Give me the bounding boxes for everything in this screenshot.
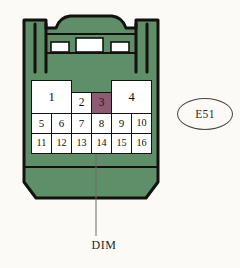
pin-1[interactable]: 1 [31,80,72,114]
pin-12[interactable]: 12 [51,133,72,154]
pin-2[interactable]: 2 [71,92,92,114]
pin-3-label: 3 [99,97,105,109]
latch-block-right [111,42,129,52]
connector-id-callout[interactable]: E51 [177,98,233,130]
pin-9-label: 9 [119,118,125,129]
pin-6[interactable]: 6 [51,113,72,134]
dim-signal-label: DIM [74,238,134,253]
pin-4-label: 4 [128,91,134,104]
pin-11[interactable]: 11 [31,133,52,154]
pin-16[interactable]: 16 [131,133,152,154]
latch-block-center [76,38,103,52]
pin-9[interactable]: 9 [111,113,132,134]
pin-7[interactable]: 7 [71,113,92,134]
pin-16-label: 16 [136,138,146,148]
pin-15[interactable]: 15 [111,133,132,154]
pin-8-label: 8 [99,118,105,129]
pin-3[interactable]: 3 [91,92,112,114]
pin-5[interactable]: 5 [31,113,52,134]
pin-11-label: 11 [37,138,47,148]
pin-4[interactable]: 4 [111,80,152,114]
pin-2-label: 2 [79,97,85,109]
connector-id-label: E51 [177,98,233,130]
connector-pinout-diagram: 1 2 3 4 5 6 7 8 9 10 11 [0,0,240,268]
pin-15-label: 15 [116,138,126,148]
pin-7-label: 7 [79,118,85,129]
pin-1-label: 1 [48,91,54,104]
pin-14[interactable]: 14 [91,133,112,154]
pin-6-label: 6 [59,118,65,129]
pin-10[interactable]: 10 [131,113,152,134]
pin-10-label: 10 [136,118,146,128]
pin-14-label: 14 [96,138,106,148]
pin-8[interactable]: 8 [91,113,112,134]
latch-block-left [51,42,69,52]
pin-13-label: 13 [76,138,86,148]
pin-12-label: 12 [56,138,66,148]
pin-5-label: 5 [39,118,45,129]
pin-13[interactable]: 13 [71,133,92,154]
